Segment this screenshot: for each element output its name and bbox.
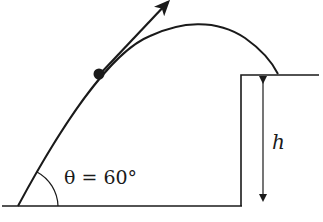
projectile-diagram: θ = 60° h <box>0 0 323 222</box>
trajectory-curve <box>18 24 278 206</box>
angle-label: θ = 60° <box>64 166 137 188</box>
height-label: h <box>272 130 285 154</box>
diagram-svg <box>0 0 323 222</box>
angle-arc <box>37 172 58 206</box>
projectile-dot <box>94 69 105 80</box>
velocity-arrow <box>99 2 168 75</box>
